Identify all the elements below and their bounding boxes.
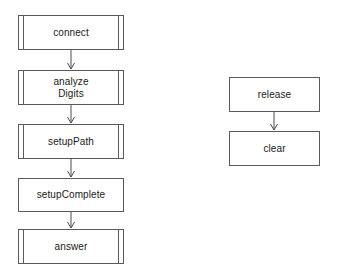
node-analyzeDigits[interactable]: analyze Digits — [18, 70, 124, 105]
flowchart-canvas: connectanalyze DigitssetupPathsetupCompl… — [0, 0, 337, 275]
node-setupPath[interactable]: setupPath — [18, 124, 124, 159]
node-release[interactable]: release — [229, 77, 320, 112]
node-connect[interactable]: connect — [18, 15, 124, 50]
node-label: setupComplete — [37, 189, 106, 201]
node-label: clear — [263, 143, 285, 155]
node-label: analyze Digits — [53, 76, 88, 99]
flow-arrow — [61, 105, 81, 126]
node-clear[interactable]: clear — [229, 131, 320, 166]
flow-arrow — [61, 50, 81, 72]
node-label: connect — [53, 27, 89, 39]
node-answer[interactable]: answer — [18, 229, 124, 264]
node-label: setupPath — [48, 136, 94, 148]
node-label: release — [258, 89, 292, 101]
node-label: answer — [55, 241, 88, 253]
flow-arrow — [61, 159, 81, 180]
node-setupComplete[interactable]: setupComplete — [18, 178, 124, 212]
flow-arrow — [264, 112, 284, 133]
